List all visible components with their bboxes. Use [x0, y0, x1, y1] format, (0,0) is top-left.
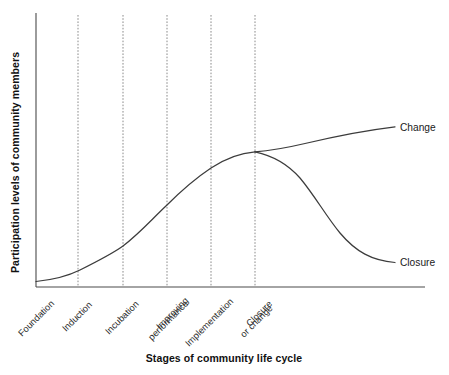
x-tick-label-implementation: Implementation: [183, 296, 235, 348]
curve-closure-branch: [255, 152, 395, 263]
x-tick-label-induction: Induction: [60, 300, 94, 334]
x-tick-label-improving-line2: performance: [146, 298, 190, 342]
chart-container: Participation levels of community member…: [0, 0, 449, 375]
x-tick-label-incubation: Incubation: [103, 299, 140, 336]
curve-label-closure: Closure: [400, 257, 435, 268]
curve-change-branch: [255, 127, 395, 152]
x-axis-title: Stages of community life cycle: [146, 352, 303, 364]
life-cycle-line-chart: Participation levels of community member…: [0, 0, 449, 375]
curve-main-growth: [36, 152, 255, 282]
x-tick-label-foundation: Foundation: [16, 298, 56, 338]
y-axis-title: Participation levels of community member…: [9, 52, 21, 273]
x-tick-labels: Foundation Induction Incubation Improvin…: [16, 295, 274, 348]
curve-label-change: Change: [400, 122, 436, 133]
